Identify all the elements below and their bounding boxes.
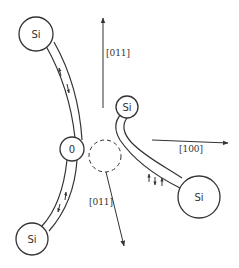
svg-text:[100]: [100]: [179, 144, 203, 154]
atom-si-bottom-left: Si: [16, 223, 48, 255]
atom-o-center: 0: [60, 137, 84, 161]
diagram-canvas: Si 0 Si Si Si [011] [100] [011]: [0, 0, 239, 268]
svg-text:Si: Si: [31, 29, 40, 40]
label-direction-bottom: [011]: [89, 197, 113, 207]
atom-si-bottom-right: Si: [178, 176, 220, 218]
svg-text:Si: Si: [194, 192, 203, 203]
svg-text:Si: Si: [27, 234, 36, 245]
bond-upper-left: [46, 42, 82, 140]
svg-text:Si: Si: [122, 102, 131, 113]
svg-text:0: 0: [69, 144, 75, 155]
direction-arrow-right: [152, 140, 228, 143]
label-direction-right: [100]: [179, 144, 203, 154]
label-direction-top: [011]: [106, 46, 130, 59]
bond-lower-left: [42, 160, 77, 231]
crystal-diagram: Si 0 Si Si Si [011] [100] [011]: [0, 0, 239, 268]
svg-text:[011]: [011]: [106, 48, 130, 58]
atom-si-small: Si: [116, 96, 138, 118]
spin-arrows-right: [149, 174, 162, 186]
svg-text:[011]: [011]: [89, 197, 113, 207]
vacancy-site: [89, 140, 121, 172]
atom-si-top-left: Si: [19, 17, 53, 51]
direction-arrow-bottom: [106, 172, 124, 246]
